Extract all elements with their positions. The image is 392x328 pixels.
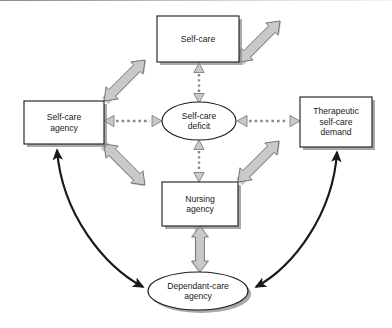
connector-deficit-to-tscd	[237, 115, 300, 126]
connector-selfcare-to-deficit	[194, 63, 204, 103]
connector-tscd-to-nursing	[232, 134, 286, 188]
connector-deficit-to-nursing	[194, 140, 204, 182]
node-self-care-agency	[24, 101, 104, 144]
node-self-care-deficit	[162, 102, 236, 140]
connector-nursing-to-dca	[191, 226, 209, 273]
connector-tscd-to-dca-curve	[256, 152, 337, 287]
connector-sca-to-deficit	[104, 115, 162, 126]
node-self-care	[157, 16, 239, 62]
node-therapeutic-self-care-demand	[300, 97, 372, 147]
diagram-svg	[0, 0, 392, 328]
node-dependant-care-agency	[148, 272, 248, 310]
node-nursing-agency	[162, 182, 238, 226]
connector-sca-to-selfcare	[98, 53, 152, 107]
diagram-canvas: Self-care Self-care agency Therapeutic s…	[0, 0, 392, 328]
